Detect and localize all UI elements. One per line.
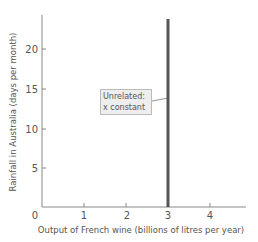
x-tick-label-1: 1 [81,210,87,221]
y-tick-label-20: 20 [25,44,38,55]
origin-label: 0 [32,210,38,221]
annotation-box: Unrelated: x constant [100,89,152,115]
y-tick-label-10: 10 [25,124,38,135]
x-tick-label-2: 2 [124,210,130,221]
x-axis-title: Output of French wine (billions of litre… [38,225,244,235]
chart: 20 15 10 5 0 1 2 3 4 Output of French wi… [0,0,258,242]
y-axis-title: Rainfall in Australia (days per month) [8,33,18,192]
annotation-line-1: Unrelated: [103,91,149,102]
annotation-line-2: x constant [103,102,149,113]
x-tick-label-4: 4 [207,210,213,221]
y-tick-label-15: 15 [25,84,38,95]
x-tick-label-3: 3 [165,210,171,221]
y-tick-label-5: 5 [32,163,38,174]
